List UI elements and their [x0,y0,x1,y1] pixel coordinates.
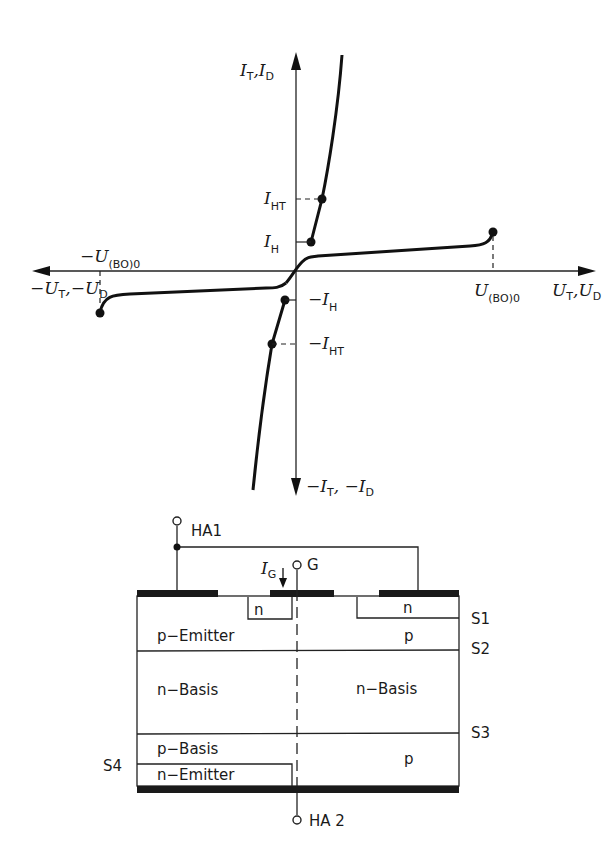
holding-pos-label: IH [263,231,279,256]
y-axis-arrow-down-icon [291,478,301,496]
breakover-pos-label: U(BO)0 [474,280,520,305]
iv-characteristic: IT,ID −IT, −ID UT,UD −UT,−UD U(BO)0 −U(B… [30,52,601,499]
contact-ha2 [137,786,459,793]
junction-s4-label: S4 [103,757,122,775]
reverse-on-state-curve [253,300,285,490]
y-axis-pos-label: IT,ID [239,60,274,83]
terminal-gate-label: G [307,556,319,574]
y-axis-arrow-up-icon [291,52,301,70]
junction-s1-label: S1 [471,610,490,628]
x-axis-arrow-right-icon [578,266,596,276]
junction-s2 [137,650,459,651]
region-n-basis-left: n−Basis [157,681,219,699]
reverse-blocking-curve [100,283,286,312]
terminal-ha1-icon [173,517,181,525]
x-axis-neg-label: −UT,−UD [30,278,108,301]
y-axis-neg-label: −IT, −ID [306,476,374,499]
forward-on-state-curve [311,55,342,242]
region-n-right: n [403,599,413,617]
breakover-point-pos [489,228,498,237]
breakover-point-neg [96,309,105,318]
terminal-ha2-icon [293,816,301,824]
x-axis-arrow-left-icon [32,266,50,276]
gate-current-arrow-icon [279,578,287,588]
junction-s3-label: S3 [471,724,490,742]
triac-diagram: IT,ID −IT, −ID UT,UD −UT,−UD U(BO)0 −U(B… [0,0,613,854]
contact-gate [270,590,334,597]
junction-s2-label: S2 [471,640,490,658]
breakover-neg-label: −U(BO)0 [80,246,140,271]
holding-neg-label: −IH [308,289,337,314]
terminal-gate-icon [293,561,301,569]
triac-structure: HA1 G IG HA 2 n n p−Emitter p n−Basis n−… [103,517,490,830]
region-n-left: n [254,601,264,619]
region-n-basis-right: n−Basis [356,680,418,698]
region-p-basis: p−Basis [157,740,219,758]
contact-ha1-right [379,590,459,597]
region-n-emitter: n−Emitter [157,766,235,784]
region-p-right-top: p [404,627,414,645]
region-p-emitter: p−Emitter [157,627,235,645]
holding-trigger-neg-label: −IHT [308,333,344,358]
holding-trigger-pos-label: IHT [263,188,286,213]
junction-s3 [137,733,459,734]
x-axis-pos-label: UT,UD [552,280,601,303]
gate-current-label: IG [260,558,276,581]
terminal-ha1-label: HA1 [191,522,222,540]
terminal-ha2-label: HA 2 [309,812,345,830]
contact-ha1-left [137,590,218,597]
region-p-right-bottom: p [404,750,414,768]
forward-blocking-curve [286,232,493,283]
